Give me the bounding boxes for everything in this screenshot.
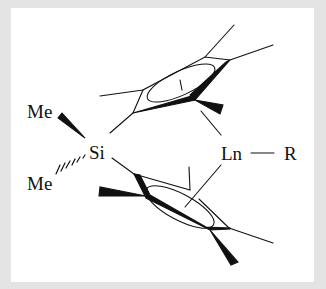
lanthanide-label: Ln [221,143,243,164]
me-bottom-label: Me [27,173,52,194]
upper-methyl-top [205,25,234,57]
ln-lower-ring-bond [185,165,221,207]
si-upper-ring-bond [110,113,133,133]
me-top-label: Me [27,101,52,122]
lower-methyl-right [229,228,273,243]
chemical-structure: Me Me Si Ln R [0,0,326,289]
lower-cp-ring [99,167,273,265]
ln-upper-ring-bond [201,111,221,135]
upper-methyl-right [230,45,273,60]
r-ligand-label: R [284,143,297,164]
si-me-wedge [58,113,85,138]
lower-methyl-bottom-wedge [210,230,238,265]
upper-methyl-left [100,90,143,96]
si-me-hashed-wedge [56,155,85,174]
upper-cp-ring [100,25,273,114]
upper-methyl-wedge [195,100,223,114]
silicon-label: Si [89,142,105,163]
si-lower-ring-bond [112,158,134,174]
lower-methyl-left-wedge [99,187,146,196]
